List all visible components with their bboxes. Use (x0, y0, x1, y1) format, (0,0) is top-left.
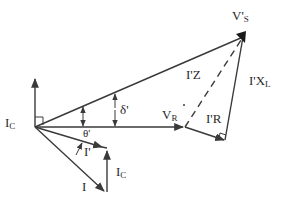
label-ic-bottom: IC (116, 165, 126, 180)
label-ic-left: IC (5, 116, 15, 131)
label-ixl: I'XL (249, 74, 271, 89)
theta-arrow (76, 143, 82, 155)
phasor-diagram: V'S I'Z I'XL δ' VR I'R IC θ' I' IC I (0, 0, 287, 205)
label-ir: I'R (206, 112, 221, 125)
phasor-diagram-lines (0, 0, 287, 205)
dot-marker (183, 104, 185, 106)
ixl-phasor (225, 37, 243, 140)
ir-phasor (185, 127, 224, 140)
label-i: I (82, 180, 86, 193)
iprime-segment (102, 147, 107, 148)
label-theta: θ' (83, 128, 90, 139)
label-iz: I'Z (186, 68, 201, 81)
label-iprime: I' (84, 145, 91, 158)
label-vs: V'S (232, 9, 249, 24)
label-vr: VR (162, 108, 177, 123)
label-delta: δ' (120, 103, 128, 116)
